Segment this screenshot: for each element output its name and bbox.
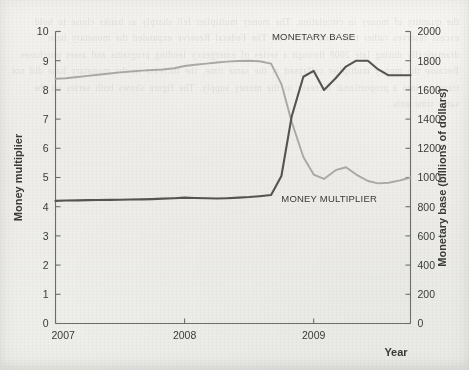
left-axis-tick-label: 5	[43, 171, 49, 183]
series-annotation: MONETARY BASE	[272, 31, 355, 42]
axes-layer	[56, 32, 411, 324]
series-layer	[56, 61, 411, 201]
right-axis-tick-label: 2000	[418, 25, 442, 37]
left-axis-tick-label: 2	[43, 259, 49, 271]
figure-container: the quantity of money in circulation. Th…	[0, 0, 469, 370]
left-axis-tick-label: 9	[43, 55, 49, 67]
right-axis-tick-label: 800	[418, 201, 436, 213]
right-axis-tick-label: 200	[418, 288, 436, 300]
right-axis-title: Monetary base (billions of dollars)	[436, 88, 448, 267]
labels-layer: 0123456789100200400600800100012001400160…	[12, 25, 448, 358]
left-axis-title: Money multiplier	[12, 133, 24, 221]
x-axis-tick-label: 2009	[302, 329, 326, 341]
left-axis-tick-label: 3	[43, 230, 49, 242]
left-axis-tick-label: 6	[43, 142, 49, 154]
right-axis-tick-label: 400	[418, 259, 436, 271]
left-axis-tick-label: 8	[43, 84, 49, 96]
left-axis-tick-label: 4	[43, 201, 49, 213]
left-axis-tick-label: 10	[37, 25, 49, 37]
left-axis-tick-label: 0	[43, 317, 49, 329]
series-line-monetary-base	[56, 61, 411, 201]
right-axis-tick-label: 0	[418, 317, 424, 329]
series-line-money-multiplier	[56, 61, 411, 184]
chart-plot: 0123456789100200400600800100012001400160…	[0, 0, 469, 370]
series-annotation: MONEY MULTIPLIER	[281, 193, 377, 204]
x-axis-tick-label: 2007	[52, 329, 76, 341]
left-axis-tick-label: 7	[43, 113, 49, 125]
left-axis-tick-label: 1	[43, 288, 49, 300]
x-axis-tick-label: 2008	[173, 329, 197, 341]
x-axis-title: Year	[384, 346, 408, 358]
right-axis-tick-label: 600	[418, 230, 436, 242]
right-axis-tick-label: 1800	[418, 55, 442, 67]
